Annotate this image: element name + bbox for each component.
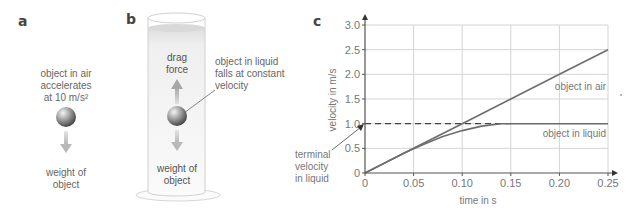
x-tick-label: 0.10 bbox=[451, 177, 472, 189]
x-tick-label: 0.15 bbox=[500, 177, 521, 189]
series-label-liquid: object in liquid bbox=[543, 128, 606, 139]
x-tick-label: 0.05 bbox=[403, 177, 424, 189]
annotation-line: in liquid bbox=[295, 173, 329, 184]
x-tick-label: 0.25 bbox=[597, 177, 618, 189]
velocity-time-chart: 00.51.01.52.02.53.000.050.100.150.200.25… bbox=[0, 0, 632, 211]
y-tick-label: 1.0 bbox=[345, 118, 360, 130]
annotation-line: velocity bbox=[295, 161, 328, 172]
annotation-line: terminal bbox=[295, 149, 331, 160]
y-tick-label: 2.5 bbox=[345, 44, 360, 56]
series bbox=[365, 50, 608, 173]
x-axis-label: time in s bbox=[459, 195, 496, 206]
y-axis-arrow-icon bbox=[362, 14, 368, 20]
x-tick-label: 0.20 bbox=[549, 177, 570, 189]
y-tick-label: 2.0 bbox=[345, 68, 360, 80]
y-tick-label: 0 bbox=[354, 167, 360, 179]
series-label-air: object in air bbox=[555, 81, 607, 92]
y-tick-label: 0.5 bbox=[345, 142, 360, 154]
x-tick-label: 0 bbox=[362, 177, 368, 189]
grid bbox=[365, 25, 608, 173]
tick-labels: 00.51.01.52.02.53.000.050.100.150.200.25 bbox=[345, 19, 619, 189]
x-axis-arrow-icon bbox=[612, 170, 618, 176]
y-axis-label: velocity in m/s bbox=[327, 69, 338, 132]
y-tick-label: 1.5 bbox=[345, 93, 360, 105]
y-tick-label: 3.0 bbox=[345, 19, 360, 31]
stray-dot bbox=[620, 94, 622, 96]
axes bbox=[362, 14, 618, 176]
